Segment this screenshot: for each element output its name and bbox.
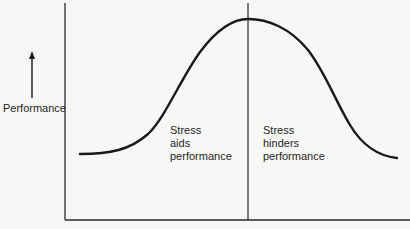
y-axis-label: Performance (3, 102, 66, 115)
region-left-line-1: Stress (170, 124, 232, 137)
region-left-line-2: aids (170, 137, 232, 150)
region-label-stress-aids: Stress aids performance (170, 124, 232, 163)
y-axis-label-text: Performance (3, 102, 66, 115)
region-right-line-3: performance (263, 150, 325, 163)
up-arrow-icon (29, 51, 35, 98)
region-right-line-2: hinders (263, 137, 325, 150)
region-left-line-3: performance (170, 150, 232, 163)
region-right-line-1: Stress (263, 124, 325, 137)
performance-curve (80, 19, 397, 158)
region-label-stress-hinders: Stress hinders performance (263, 124, 325, 163)
